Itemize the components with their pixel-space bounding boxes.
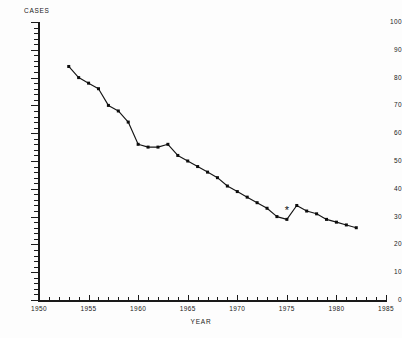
data-point xyxy=(355,226,358,229)
data-point xyxy=(117,109,120,112)
data-point-markers xyxy=(67,65,358,229)
data-point xyxy=(87,82,90,85)
data-point xyxy=(176,154,179,157)
x-axis-title: YEAR xyxy=(0,318,402,325)
data-point xyxy=(226,185,229,188)
data-point xyxy=(107,104,110,107)
data-point xyxy=(166,143,169,146)
data-point xyxy=(137,143,140,146)
data-point xyxy=(266,207,269,210)
data-point xyxy=(335,221,338,224)
data-point xyxy=(196,165,199,168)
data-point xyxy=(246,196,249,199)
data-point xyxy=(325,218,328,221)
data-point xyxy=(147,146,150,149)
data-point xyxy=(285,218,288,221)
data-point xyxy=(295,204,298,207)
annotation-markers: * xyxy=(285,204,290,216)
data-point xyxy=(305,210,308,213)
data-point xyxy=(236,190,239,193)
data-point xyxy=(156,146,159,149)
data-point xyxy=(186,160,189,163)
plot-area: * xyxy=(0,0,402,338)
data-point xyxy=(256,201,259,204)
data-point xyxy=(77,76,80,79)
chart-figure: CASES 0102030405060708090100 19501955196… xyxy=(0,0,402,338)
asterisk-annotation: * xyxy=(285,204,290,216)
data-point xyxy=(275,215,278,218)
data-point xyxy=(67,65,70,68)
data-point xyxy=(216,176,219,179)
data-point xyxy=(315,212,318,215)
data-point xyxy=(127,121,130,124)
data-line-cases xyxy=(69,66,357,227)
data-point xyxy=(345,223,348,226)
data-point xyxy=(97,87,100,90)
data-point xyxy=(206,171,209,174)
